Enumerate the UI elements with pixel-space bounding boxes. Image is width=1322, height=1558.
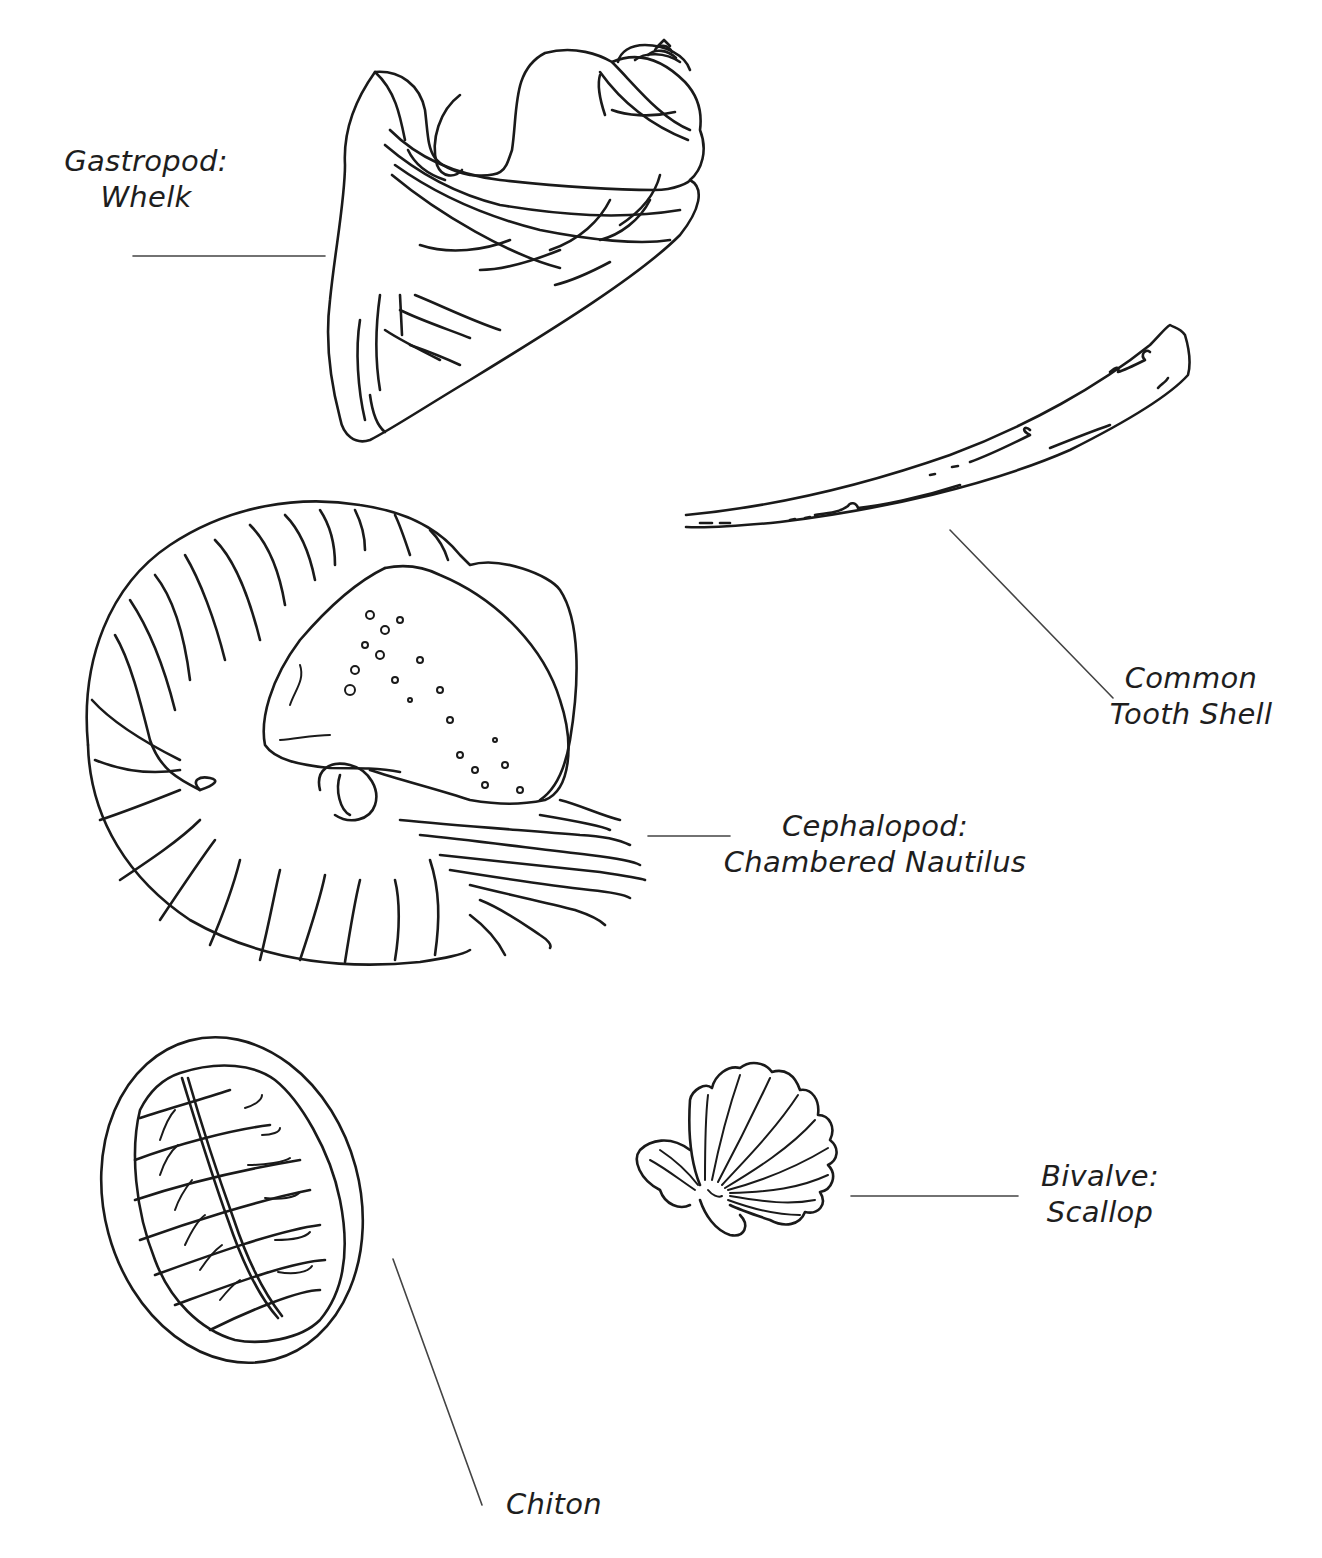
whelk-label-line2: Whelk — [48, 179, 244, 215]
nautilus-label-line2: Chambered Nautilus — [705, 844, 1045, 880]
whelk-label: Gastropod: Whelk — [48, 143, 244, 215]
scallop-label-line2: Scallop — [1030, 1194, 1170, 1230]
scallop-label-line1: Bivalve: — [1030, 1158, 1170, 1194]
scallop-drawing — [637, 1063, 837, 1235]
tooth-shell-leader-line — [950, 530, 1113, 698]
mollusk-illustration — [0, 0, 1322, 1558]
chiton-label-line1: Chiton — [506, 1486, 602, 1522]
tooth-shell-label-line2: Tooth Shell — [1100, 696, 1282, 732]
whelk-drawing — [328, 40, 704, 441]
chiton-drawing — [66, 1007, 399, 1392]
chiton-label: Chiton — [506, 1486, 602, 1522]
tooth-shell-drawing — [686, 325, 1190, 527]
tooth-shell-label: Common Tooth Shell — [1100, 660, 1282, 732]
nautilus-label-line1: Cephalopod: — [705, 808, 1045, 844]
chiton-leader-line — [393, 1259, 482, 1505]
scallop-label: Bivalve: Scallop — [1030, 1158, 1170, 1230]
nautilus-drawing — [87, 501, 645, 964]
nautilus-label: Cephalopod: Chambered Nautilus — [705, 808, 1045, 880]
tooth-shell-label-line1: Common — [1100, 660, 1282, 696]
whelk-label-line1: Gastropod: — [48, 143, 244, 179]
